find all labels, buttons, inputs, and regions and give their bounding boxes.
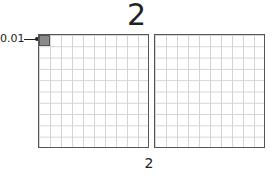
hundred-grid-1	[38, 34, 149, 148]
grid-caption: 2	[134, 154, 164, 172]
diagram-title: 2	[0, 0, 273, 32]
pointer-arrow-icon	[24, 39, 38, 40]
shaded-cell	[39, 35, 50, 46]
hundredth-label: 0.01	[0, 33, 25, 45]
hundred-grid-2	[154, 34, 265, 148]
